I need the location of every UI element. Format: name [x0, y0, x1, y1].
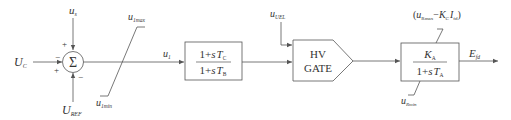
svg-text:1+sTC: 1+sTC	[200, 48, 227, 61]
input-uref-label: UREF	[62, 103, 82, 117]
sign-left-upper: −	[55, 52, 60, 62]
svg-text:(uRmax−KCIfd): (uRmax−KCIfd)	[413, 9, 461, 21]
input-us-label: us	[69, 4, 78, 17]
svg-text:us: us	[69, 4, 78, 17]
svg-text:u1max: u1max	[128, 11, 145, 23]
svg-text:UC: UC	[14, 55, 28, 69]
sign-bottom: −	[78, 72, 83, 82]
hv-gate-block: HV GATE	[293, 40, 353, 81]
exciter-upper-limit-label: (uRmax−KCIfd)	[413, 9, 461, 21]
output-efd-label: Efd	[468, 47, 480, 60]
exciter-lower-limit-line	[408, 81, 420, 95]
limiter-max-label: u1max	[128, 11, 145, 23]
limiter-line	[100, 27, 145, 96]
svg-text:UREF: UREF	[62, 103, 82, 117]
svg-text:uRmin: uRmin	[401, 95, 417, 107]
limiter-min-label: u1min	[96, 97, 112, 109]
exciter-lower-limit-label: uRmin	[401, 95, 417, 107]
svg-text:HV: HV	[310, 48, 326, 60]
input-uc-label: UC	[14, 55, 28, 69]
signal-u1-label: u1	[163, 48, 171, 60]
summing-junction: Σ	[63, 52, 84, 73]
sigma-icon: Σ	[69, 55, 77, 70]
svg-text:GATE: GATE	[304, 62, 332, 74]
input-uuel-label: uUEL	[270, 8, 285, 20]
sign-left-lower: +	[54, 65, 59, 75]
sign-top: +	[62, 39, 67, 49]
exciter-block: KA 1+sTA	[401, 43, 459, 81]
svg-text:uUEL: uUEL	[270, 8, 285, 20]
block-diagram: UC us UREF Σ + − + − u1max u1min u1 1+sT…	[0, 0, 511, 120]
svg-text:1+sTB: 1+sTB	[200, 64, 227, 77]
svg-text:Efd: Efd	[468, 47, 480, 60]
svg-text:u1: u1	[163, 48, 171, 60]
exciter-upper-limit-line	[436, 29, 443, 43]
lead-lag-block: 1+sTC 1+sTB	[185, 42, 242, 80]
uuel-signal-line	[281, 22, 292, 45]
svg-text:u1min: u1min	[96, 97, 112, 109]
svg-text:1+sTA: 1+sTA	[416, 65, 443, 78]
